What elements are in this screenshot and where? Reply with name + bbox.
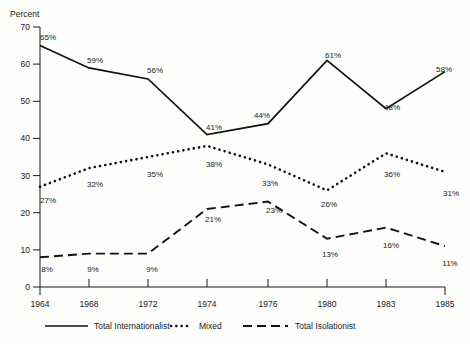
data-label: 16% — [383, 241, 399, 250]
x-tick-label-1972: 1972 — [139, 299, 158, 309]
y-axis-ticks — [33, 27, 40, 287]
data-label: 8% — [41, 265, 53, 274]
data-label: 33% — [262, 179, 278, 188]
data-label: 9% — [87, 265, 99, 274]
data-label: 31% — [443, 189, 459, 198]
data-label: 11% — [442, 259, 457, 268]
data-label: 56% — [147, 66, 163, 75]
data-labels-total-isolationist: 8% 9% 9% 21% 23% 13% 16% 11% — [41, 206, 457, 274]
legend-label: Total Internationalist — [94, 321, 170, 331]
y-tick-label: 40 — [21, 133, 31, 143]
y-tick-label: 0 — [25, 282, 30, 292]
y-tick-label: 60 — [21, 59, 31, 69]
legend-item-total-isolationist[interactable]: Total Isolationist — [243, 321, 356, 331]
data-label: 9% — [146, 265, 158, 274]
data-label: 32% — [87, 180, 103, 189]
chart-container: Percent 0 10 20 30 40 50 60 70 — [0, 0, 470, 344]
x-tick-label-1968: 1968 — [80, 299, 99, 309]
data-label: 13% — [322, 250, 338, 259]
data-label: 38% — [206, 160, 222, 169]
data-labels-total-internationalist: 65% 59% 56% 41% 44% 61% 48% 58% — [40, 33, 452, 132]
x-tick-label-1983: 1983 — [377, 299, 396, 309]
data-label: 27% — [40, 196, 56, 205]
data-label: 26% — [321, 200, 337, 209]
data-label: 61% — [325, 51, 341, 60]
data-label: 59% — [87, 56, 103, 65]
y-axis-tick-labels: 0 10 20 30 40 50 60 70 — [21, 22, 31, 292]
y-tick-label: 30 — [21, 171, 31, 181]
data-label: 48% — [384, 103, 400, 112]
legend-item-total-internationalist[interactable]: Total Internationalist — [45, 321, 170, 331]
legend-item-mixed[interactable]: Mixed — [171, 321, 222, 331]
data-labels-mixed: 27% 32% 35% 38% 33% 26% 36% 31% — [40, 160, 459, 209]
x-tick-label-1974: 1974 — [198, 299, 217, 309]
legend-label: Mixed — [199, 321, 222, 331]
data-label: 23% — [266, 206, 282, 215]
y-tick-label: 10 — [21, 245, 31, 255]
data-label: 58% — [436, 65, 452, 74]
data-label: 21% — [205, 215, 221, 224]
data-label: 65% — [40, 33, 56, 42]
data-label: 35% — [147, 170, 163, 179]
x-tick-label-1964: 1964 — [31, 299, 50, 309]
y-tick-label: 20 — [21, 208, 31, 218]
line-chart: Percent 0 10 20 30 40 50 60 70 — [0, 0, 470, 344]
chart-legend: Total Internationalist Mixed Total Isola… — [45, 321, 356, 331]
y-axis-title: Percent — [10, 9, 40, 19]
data-label: 41% — [206, 123, 222, 132]
data-label: 36% — [384, 170, 400, 179]
x-tick-label-1976: 1976 — [259, 299, 278, 309]
y-tick-label: 50 — [21, 96, 31, 106]
x-tick-label-1980: 1980 — [318, 299, 337, 309]
x-axis-tick-labels: 1964 1968 1972 1974 1976 1980 1983 1985 — [31, 299, 455, 309]
data-label: 44% — [254, 111, 270, 120]
x-tick-label-1985: 1985 — [436, 299, 455, 309]
y-tick-label: 70 — [21, 22, 31, 32]
legend-label: Total Isolationist — [295, 321, 356, 331]
